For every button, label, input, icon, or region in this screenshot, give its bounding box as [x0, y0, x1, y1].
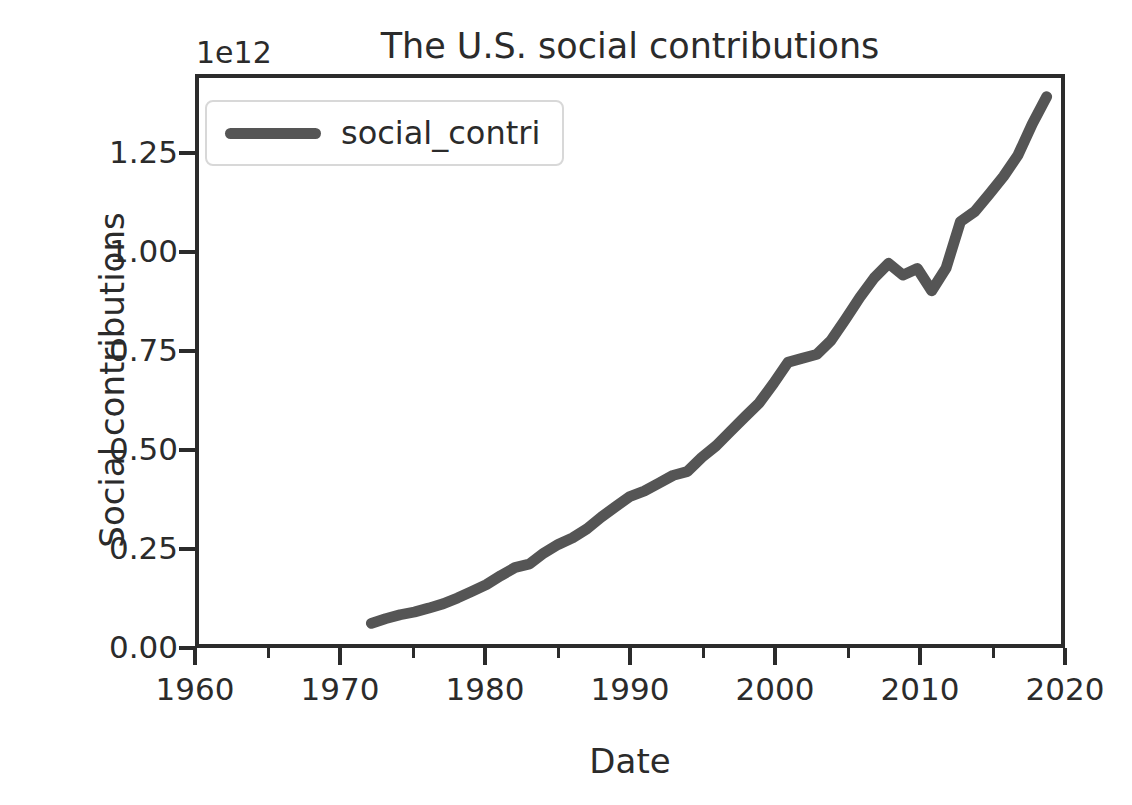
x-tick-mark — [628, 648, 632, 665]
x-tick-mark — [483, 648, 487, 665]
x-tick-mark-minor — [992, 648, 995, 658]
x-tick-mark — [338, 648, 342, 665]
x-tick-label: 1970 — [270, 672, 410, 706]
y-tick-label: 0.25 — [0, 533, 178, 564]
x-tick-mark-minor — [412, 648, 415, 658]
x-tick-mark-minor — [267, 648, 270, 658]
x-axis-title: Date — [195, 742, 1065, 780]
x-tick-label: 1980 — [415, 672, 555, 706]
x-tick-label: 1960 — [125, 672, 265, 706]
y-tick-mark — [179, 448, 195, 452]
legend-label-social-contri: social_contri — [341, 116, 540, 150]
chart-legend: social_contri — [205, 100, 564, 166]
y-tick-label: 0.75 — [0, 335, 178, 366]
x-tick-label: 2010 — [850, 672, 990, 706]
x-tick-mark — [773, 648, 777, 665]
chart-title: The U.S. social contributions — [195, 26, 1065, 66]
y-tick-mark — [179, 547, 195, 551]
series-social-contri-line — [371, 97, 1046, 624]
chart-figure: The U.S. social contributions 1e12 0.000… — [0, 0, 1132, 805]
y-axis-offset-label: 1e12 — [196, 36, 272, 70]
x-tick-mark — [193, 648, 197, 665]
y-tick-label: 0.50 — [0, 434, 178, 465]
x-tick-mark-minor — [702, 648, 705, 658]
y-axis-title: Social contributions — [93, 93, 131, 667]
x-tick-mark — [1063, 648, 1067, 665]
x-tick-label: 2020 — [995, 672, 1132, 706]
x-tick-label: 1990 — [560, 672, 700, 706]
x-tick-label: 2000 — [705, 672, 845, 706]
y-tick-mark — [179, 349, 195, 353]
x-tick-mark-minor — [847, 648, 850, 658]
y-tick-mark — [179, 250, 195, 254]
x-tick-mark — [918, 648, 922, 665]
x-tick-mark-minor — [557, 648, 560, 658]
y-tick-label: 0.00 — [0, 632, 178, 663]
y-tick-mark — [179, 151, 195, 155]
y-tick-label: 1.00 — [0, 236, 178, 267]
y-tick-label: 1.25 — [0, 137, 178, 168]
legend-line-swatch — [225, 128, 321, 139]
